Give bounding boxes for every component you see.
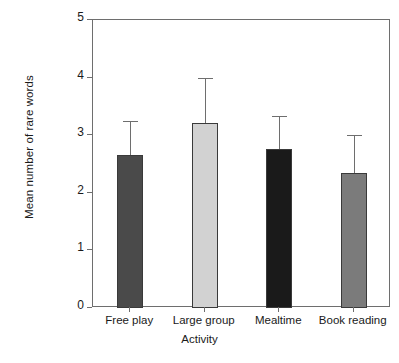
- y-tick-label: 3: [77, 126, 84, 138]
- x-tick-mark: [353, 307, 354, 312]
- x-tick-label: Free play: [105, 314, 153, 326]
- error-bar-stem: [279, 116, 280, 149]
- x-tick-label: Book reading: [319, 314, 387, 326]
- x-tick-label: Mealtime: [255, 314, 302, 326]
- bar: [266, 149, 292, 308]
- bar: [341, 173, 367, 308]
- x-tick-label: Large group: [173, 314, 235, 326]
- error-bar-cap: [198, 78, 213, 79]
- bar: [192, 123, 218, 308]
- x-axis-label: Activity: [0, 333, 399, 345]
- error-bar-stem: [205, 78, 206, 123]
- error-bar-stem: [354, 135, 355, 173]
- x-tick-mark: [278, 307, 279, 312]
- y-tick-label: 0: [77, 299, 84, 311]
- error-bar-cap: [272, 116, 287, 117]
- chart-figure: Mean number of rare words 012345 Free pl…: [0, 0, 399, 363]
- y-tick-label: 4: [77, 69, 84, 81]
- bar: [117, 155, 143, 308]
- y-axis-label: Mean number of rare words: [23, 17, 35, 277]
- error-bar-cap: [347, 135, 362, 136]
- y-tick: 5: [58, 19, 92, 20]
- error-bar-cap: [123, 121, 138, 122]
- x-tick-mark: [204, 307, 205, 312]
- x-tick-mark: [129, 307, 130, 312]
- y-tick-label: 1: [77, 241, 84, 253]
- y-tick: 1: [58, 249, 92, 250]
- y-tick: 0: [58, 307, 92, 308]
- y-tick-label: 5: [77, 11, 84, 23]
- plot-area: [92, 19, 390, 307]
- y-tick-label: 2: [77, 184, 84, 196]
- y-tick-mark: [87, 307, 92, 308]
- y-tick: 3: [58, 134, 92, 135]
- y-tick: 4: [58, 77, 92, 78]
- y-tick: 2: [58, 192, 92, 193]
- error-bar-stem: [130, 121, 131, 156]
